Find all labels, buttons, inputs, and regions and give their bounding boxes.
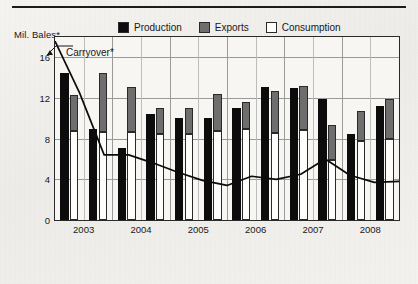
plot-top-rule (92, 36, 400, 37)
carryover-polyline (55, 41, 399, 185)
legend-label-production: Production (134, 22, 182, 33)
x-tick-label-2007: 2007 (302, 224, 323, 235)
legend-item-exports: Exports (199, 22, 249, 33)
legend-label-exports: Exports (215, 22, 249, 33)
chart-legend: Production Exports Consumption (118, 22, 341, 33)
legend-label-consumption: Consumption (282, 22, 341, 33)
plot-left-rule (54, 36, 55, 221)
production-swatch-icon (118, 22, 129, 33)
x-tick-label-2005: 2005 (188, 224, 209, 235)
legend-item-consumption: Consumption (266, 22, 341, 33)
x-tick-label-2003: 2003 (73, 224, 94, 235)
x-tick-label-2008: 2008 (360, 224, 381, 235)
exports-swatch-icon (199, 22, 210, 33)
x-tick-label-2004: 2004 (130, 224, 151, 235)
y-tick-label-0: 0 (45, 215, 50, 226)
y-tick-label-8: 8 (45, 133, 50, 144)
top-divider-rule (12, 6, 406, 8)
x-tick-label-2006: 2006 (245, 224, 266, 235)
y-tick-label-4: 4 (45, 174, 50, 185)
legend-item-production: Production (118, 22, 182, 33)
plot-area: 0481216 200320042005200620072008 (54, 36, 400, 221)
carryover-line (55, 37, 399, 220)
y-tick-label-12: 12 (39, 93, 50, 104)
gridline-0 (55, 220, 399, 221)
carryover-annotation: Carryover* (66, 47, 114, 58)
consumption-swatch-icon (266, 22, 277, 33)
